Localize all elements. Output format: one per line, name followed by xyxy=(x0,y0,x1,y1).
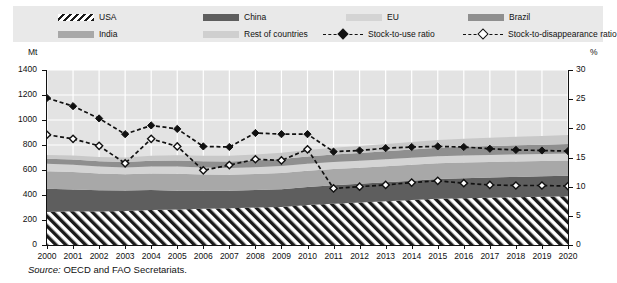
left-tickmark xyxy=(42,145,46,146)
right-tick-label: 15 xyxy=(576,153,594,162)
right-tickmark xyxy=(569,245,573,246)
source-prefix: Source: xyxy=(28,264,61,275)
legend-item-brazil: Brazil xyxy=(468,10,530,24)
left-tickmark xyxy=(42,245,46,246)
marker-stock-to-use-ratio xyxy=(148,122,155,129)
legend-item-stock-to-disappearance: Stock-to-disappearance ratio xyxy=(463,27,617,41)
marker-stock-to-disappearance-ratio xyxy=(148,135,155,142)
left-tickmark xyxy=(42,70,46,71)
x-tickmark xyxy=(386,245,387,249)
left-tick-label: 800 xyxy=(7,140,37,149)
india-swatch-icon xyxy=(58,31,94,38)
right-tickmark xyxy=(569,216,573,217)
x-tickmark xyxy=(99,245,100,249)
left-axis-title: Mt xyxy=(28,47,37,57)
source-note: Source: OECD and FAO Secretariats. xyxy=(28,264,187,275)
marker-stock-to-use-ratio xyxy=(252,129,259,136)
legend-label-china: China xyxy=(244,13,266,22)
legend-item-india: India xyxy=(58,27,117,41)
left-tickmark xyxy=(42,195,46,196)
right-tickmark xyxy=(569,187,573,188)
left-tick-label: 0 xyxy=(7,240,37,249)
marker-stock-to-use-ratio xyxy=(304,131,311,138)
legend-label-rest-of-countries: Rest of countries xyxy=(244,30,308,39)
legend-label-stock-to-disappearance-ratio: Stock-to-disappearance ratio xyxy=(508,30,617,39)
legend-label-eu: EU xyxy=(387,13,399,22)
legend-item-stock-to-use: Stock-to-use ratio xyxy=(323,27,435,41)
china-swatch-icon xyxy=(203,14,239,21)
plot-area xyxy=(47,70,568,245)
right-tick-label: 30 xyxy=(576,65,594,74)
brazil-swatch-icon xyxy=(468,14,504,21)
x-tickmark xyxy=(360,245,361,249)
eu-swatch-icon xyxy=(346,14,382,21)
right-tick-label: 25 xyxy=(576,94,594,103)
x-tickmark xyxy=(438,245,439,249)
x-tickmark xyxy=(542,245,543,249)
x-tickmark xyxy=(255,245,256,249)
x-tickmark xyxy=(281,245,282,249)
right-tickmark xyxy=(569,128,573,129)
x-tickmark xyxy=(203,245,204,249)
marker-stock-to-disappearance-ratio xyxy=(174,143,181,150)
left-tick-label: 400 xyxy=(7,190,37,199)
x-tickmark xyxy=(177,245,178,249)
legend-item-usa: USA xyxy=(58,10,116,24)
left-tick-label: 1400 xyxy=(7,65,37,74)
left-tick-label: 600 xyxy=(7,165,37,174)
marker-stock-to-disappearance-ratio xyxy=(47,131,51,138)
right-axis-title: % xyxy=(590,47,598,57)
marker-stock-to-use-ratio xyxy=(122,131,129,138)
x-tickmark xyxy=(490,245,491,249)
stock-to-use-line-icon xyxy=(323,30,363,39)
legend-label-stock-to-use-ratio: Stock-to-use ratio xyxy=(368,30,435,39)
x-tickmark xyxy=(47,245,48,249)
legend-item-china: China xyxy=(203,10,266,24)
left-tick-label: 200 xyxy=(7,215,37,224)
x-tickmark xyxy=(568,245,569,249)
legend-row-1: USA China EU Brazil xyxy=(13,10,603,24)
chart-canvas xyxy=(47,70,568,245)
source-text: OECD and FAO Secretariats. xyxy=(63,264,187,275)
legend: USA China EU Brazil India Rest of c xyxy=(13,6,603,42)
left-tick-label: 1200 xyxy=(7,90,37,99)
legend-item-rest: Rest of countries xyxy=(203,27,308,41)
left-axis-line xyxy=(46,70,47,245)
left-tickmark xyxy=(42,170,46,171)
marker-stock-to-use-ratio xyxy=(278,131,285,138)
legend-row-2: India Rest of countries Stock-to-use rat… xyxy=(13,27,603,41)
left-tick-label: 1000 xyxy=(7,115,37,124)
rest-of-countries-swatch-icon xyxy=(203,31,239,38)
right-tickmark xyxy=(569,158,573,159)
legend-item-eu: EU xyxy=(346,10,399,24)
x-tickmark xyxy=(73,245,74,249)
left-tickmark xyxy=(42,120,46,121)
right-tick-label: 20 xyxy=(576,123,594,132)
legend-label-usa: USA xyxy=(99,13,116,22)
right-tickmark xyxy=(569,70,573,71)
x-tickmark xyxy=(516,245,517,249)
x-tickmark xyxy=(125,245,126,249)
marker-stock-to-use-ratio xyxy=(174,125,181,132)
marker-stock-to-use-ratio xyxy=(96,115,103,122)
legend-label-india: India xyxy=(99,30,117,39)
x-tickmark xyxy=(308,245,309,249)
x-tickmark xyxy=(229,245,230,249)
marker-stock-to-use-ratio xyxy=(69,103,76,110)
right-tick-label: 0 xyxy=(576,240,594,249)
right-tick-label: 5 xyxy=(576,211,594,220)
usa-swatch-icon xyxy=(58,14,94,21)
right-tickmark xyxy=(569,99,573,100)
x-tickmark xyxy=(412,245,413,249)
x-tickmark xyxy=(464,245,465,249)
legend-label-brazil: Brazil xyxy=(509,13,530,22)
x-tickmark xyxy=(151,245,152,249)
x-tickmark xyxy=(334,245,335,249)
right-tick-label: 10 xyxy=(576,182,594,191)
marker-stock-to-disappearance-ratio xyxy=(69,135,76,142)
left-tickmark xyxy=(42,220,46,221)
left-tickmark xyxy=(42,95,46,96)
marker-stock-to-disappearance-ratio xyxy=(96,142,103,149)
stock-to-disappearance-line-icon xyxy=(463,30,503,39)
